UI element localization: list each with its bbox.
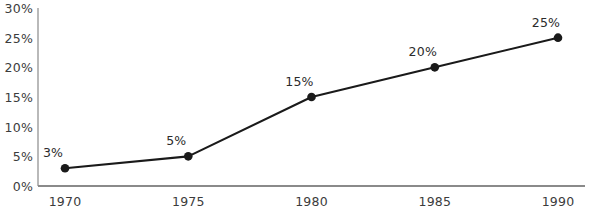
data-point-marker[interactable] (61, 164, 70, 173)
y-axis-tick-label: 0% (13, 179, 33, 194)
chart-canvas (0, 0, 598, 216)
x-axis-tick-label: 1985 (418, 194, 451, 209)
y-axis-tick-label: 20% (5, 60, 33, 75)
data-point-value-label: 15% (285, 74, 313, 89)
x-axis-tick-label: 1970 (49, 194, 82, 209)
x-axis-tick-label: 1980 (295, 194, 328, 209)
data-point-value-label: 25% (532, 15, 560, 30)
y-axis-tick-label: 5% (13, 149, 33, 164)
data-point-value-label: 20% (409, 44, 437, 59)
data-point-marker[interactable] (554, 33, 563, 42)
line-chart: 0%5%10%15%20%25%30%197019751980198519903… (0, 0, 598, 216)
y-axis-tick-label: 10% (5, 119, 33, 134)
data-point-marker[interactable] (307, 93, 316, 102)
data-point-marker[interactable] (184, 152, 193, 161)
y-axis-tick-label: 15% (5, 90, 33, 105)
data-point-marker[interactable] (430, 63, 439, 72)
data-point-value-label: 3% (43, 145, 63, 160)
y-axis-tick-label: 30% (5, 1, 33, 16)
data-line-series (65, 38, 558, 169)
x-axis-tick-label: 1975 (172, 194, 205, 209)
y-axis-tick-label: 25% (5, 30, 33, 45)
x-axis-tick-label: 1990 (542, 194, 575, 209)
data-point-value-label: 5% (166, 133, 186, 148)
